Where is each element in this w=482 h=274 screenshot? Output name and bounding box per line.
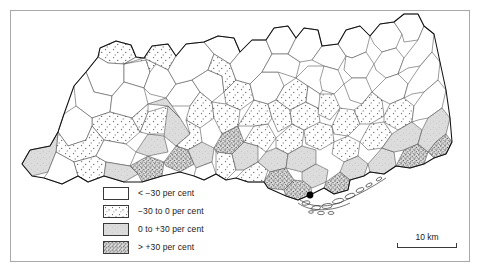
city-point-marker <box>307 192 314 199</box>
legend-swatch-class-3 <box>103 223 129 236</box>
scale-bar-label: 10 km <box>396 232 458 242</box>
scale-bar-bracket <box>397 243 457 248</box>
legend-pattern-light-grey <box>104 224 128 235</box>
legend-pattern-sparse-dots <box>104 206 128 217</box>
legend-item: −30 to 0 per cent <box>103 202 268 220</box>
legend-swatch-class-4 <box>103 241 129 254</box>
legend-label-class-1: < −30 per cent <box>138 188 194 198</box>
legend-item: < −30 per cent <box>103 184 268 202</box>
legend-label-class-3: 0 to +30 per cent <box>138 224 204 234</box>
legend-item: 0 to +30 per cent <box>103 220 268 238</box>
map-region <box>130 156 164 182</box>
legend-pattern-dense-stipple <box>104 242 128 253</box>
figure-root: < −30 per cent −30 to 0 per cent 0 to +3… <box>0 0 482 274</box>
scale-bar: 10 km <box>396 232 458 252</box>
legend-swatch-class-1 <box>103 187 129 200</box>
map-region <box>368 148 396 174</box>
map-region <box>136 134 168 156</box>
legend-label-class-2: −30 to 0 per cent <box>138 206 204 216</box>
legend-swatch-class-2 <box>103 205 129 218</box>
map-region <box>320 66 344 94</box>
legend-label-class-4: > +30 per cent <box>138 242 194 252</box>
legend-item: > +30 per cent <box>103 238 268 256</box>
map-legend: < −30 per cent −30 to 0 per cent 0 to +3… <box>103 184 268 256</box>
map-region <box>374 48 404 78</box>
